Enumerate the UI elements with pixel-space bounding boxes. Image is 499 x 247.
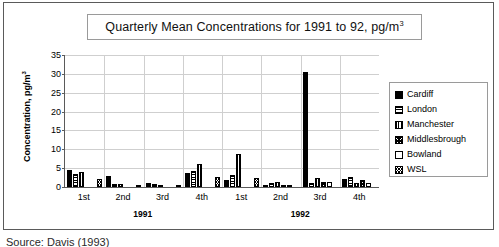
y-axis-tick-label: 30: [51, 69, 61, 78]
x-axis-year-label: 1991: [64, 208, 222, 221]
legend-swatch-icon: [395, 121, 403, 129]
bar: [224, 180, 229, 187]
x-axis-tick-label: 2nd: [261, 191, 300, 204]
y-axis-tick-label: 25: [51, 88, 61, 97]
y-axis-tick-mark: [62, 187, 65, 188]
x-axis-tick-label: 4th: [182, 191, 221, 204]
bar: [185, 173, 190, 187]
chart-title-box: Quarterly Mean Concentrations for 1991 t…: [87, 14, 422, 40]
bar: [354, 183, 359, 187]
legend: CardiffLondonManchesterMiddlesbroughBowl…: [389, 82, 488, 177]
bar: [152, 184, 157, 187]
bar-group: [261, 55, 300, 187]
bar: [215, 177, 220, 187]
x-axis-tick-label: 3rd: [143, 191, 182, 204]
bar: [366, 183, 371, 187]
chart-frame: Quarterly Mean Concentrations for 1991 t…: [3, 2, 494, 230]
legend-item[interactable]: Manchester: [395, 117, 484, 132]
figure-container: Quarterly Mean Concentrations for 1991 t…: [0, 0, 499, 247]
bar-group: [65, 55, 104, 187]
y-axis-title-superscript: 3: [21, 71, 27, 74]
bar: [236, 154, 241, 187]
legend-label: Bowland: [407, 150, 442, 159]
legend-label: London: [407, 105, 437, 114]
x-axis-tick-label: 1st: [64, 191, 103, 204]
bar: [315, 178, 320, 187]
chart-title-text: Quarterly Mean Concentrations for 1991 t…: [105, 21, 399, 35]
legend-swatch-icon: [395, 166, 403, 174]
legend-label: Middlesbrough: [407, 135, 466, 144]
chart-title-superscript: 3: [399, 19, 403, 28]
legend-item[interactable]: London: [395, 102, 484, 117]
bar: [327, 182, 332, 187]
legend-item[interactable]: Cardiff: [395, 87, 484, 102]
bar: [176, 185, 181, 187]
x-axis-tick-label: 2nd: [103, 191, 142, 204]
bar: [303, 72, 308, 187]
legend-swatch-icon: [395, 91, 403, 99]
y-axis-tick-label: 10: [51, 145, 61, 154]
bar: [191, 171, 196, 187]
y-axis-tick-label: 20: [51, 107, 61, 116]
legend-swatch-icon: [395, 136, 403, 144]
bar: [348, 177, 353, 187]
bar: [230, 175, 235, 187]
bar: [146, 183, 151, 187]
y-axis-tick-label: 35: [51, 51, 61, 60]
legend-label: WSL: [407, 165, 427, 174]
bar: [112, 184, 117, 187]
x-axis-tick-label: 1st: [222, 191, 261, 204]
y-axis-title-text: Concentration, pg/m: [22, 74, 32, 162]
bar: [97, 179, 102, 187]
bar: [342, 179, 347, 187]
x-axis-tick-label: 3rd: [300, 191, 339, 204]
bar: [79, 172, 84, 187]
x-axis-tick-label: 4th: [340, 191, 379, 204]
bar: [321, 182, 326, 187]
bar-group: [144, 55, 183, 187]
page-title: Quarterly Mean Concentrations for 1991 t…: [105, 19, 403, 34]
bar: [67, 170, 72, 187]
legend-item[interactable]: WSL: [395, 162, 484, 177]
bar: [136, 185, 141, 187]
figure-caption: Source: Davis (1993): [6, 236, 406, 247]
legend-item[interactable]: Middlesbrough: [395, 132, 484, 147]
bar: [360, 180, 365, 187]
bar-group: [104, 55, 143, 187]
bar: [197, 164, 202, 187]
y-axis-tick-label: 5: [56, 164, 61, 173]
legend-item[interactable]: Bowland: [395, 147, 484, 162]
y-axis-tick-label: 0: [56, 183, 61, 192]
bar: [118, 184, 123, 187]
legend-swatch-icon: [395, 106, 403, 114]
bar: [254, 178, 259, 187]
bar: [287, 185, 292, 187]
y-axis-title: Concentration, pg/m3: [21, 62, 32, 172]
bar-group: [183, 55, 222, 187]
bar: [269, 183, 274, 187]
legend-label: Cardiff: [407, 90, 433, 99]
bar-series-container: [65, 55, 379, 187]
x-axis-year-label: 1992: [222, 208, 380, 221]
x-axis-group-labels: 19911992: [64, 208, 379, 221]
bar: [275, 182, 280, 187]
legend-swatch-icon: [395, 151, 403, 159]
bar: [309, 183, 314, 187]
bar: [158, 185, 163, 187]
bar: [73, 174, 78, 187]
plot-area: 05101520253035: [64, 55, 379, 188]
y-axis-tick-label: 15: [51, 126, 61, 135]
bar-group: [301, 55, 340, 187]
legend-label: Manchester: [407, 120, 454, 129]
bar: [106, 176, 111, 187]
bar: [263, 185, 268, 187]
bar-group: [340, 55, 379, 187]
bar-group: [222, 55, 261, 187]
bar: [281, 185, 286, 187]
x-axis-tick-labels: 1st2nd3rd4th1st2nd3rd4th: [64, 191, 379, 204]
